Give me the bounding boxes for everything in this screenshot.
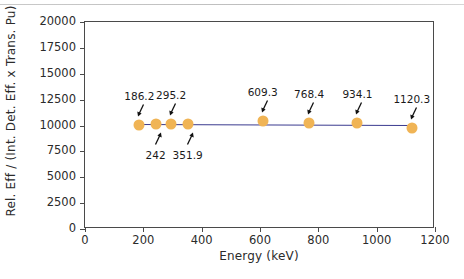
y-axis-title: Rel. Eff / (Int. Det. Eff. x Trans. Pu): [4, 0, 18, 246]
x-axis-tick: [143, 227, 144, 232]
y-axis-tick-label: 20000: [39, 16, 76, 28]
x-axis-tick-label: 800: [307, 235, 329, 247]
data-point-label: 186.2: [124, 91, 154, 102]
data-point-label: 934.1: [342, 89, 372, 100]
x-axis-tick-label: 400: [191, 235, 213, 247]
data-point-marker: [304, 118, 315, 129]
y-axis-tick: [80, 48, 85, 49]
y-axis-tick-label: 0: [69, 223, 76, 235]
data-point-marker: [406, 122, 417, 133]
y-axis-tick: [80, 22, 85, 23]
fit-line: [139, 124, 411, 126]
y-axis-tick: [80, 177, 85, 178]
y-axis-tick: [80, 100, 85, 101]
y-axis-tick-label: 5000: [47, 172, 76, 184]
data-point-label: 242: [146, 150, 166, 161]
data-point-label: 1120.3: [393, 94, 430, 105]
y-axis-tick-label: 15000: [39, 68, 76, 80]
data-point-marker: [257, 116, 268, 127]
chart-figure: 0250050007500100001250015000175002000002…: [0, 0, 464, 279]
data-point-label: 351.9: [173, 150, 203, 161]
data-point-label: 609.3: [248, 87, 278, 98]
x-axis-tick: [260, 227, 261, 232]
x-axis-tick: [202, 227, 203, 232]
annotation-arrow-icon: [354, 101, 364, 115]
annotation-arrow-icon: [306, 101, 316, 115]
data-point-label: 295.2: [156, 90, 186, 101]
y-axis-tick-label: 7500: [47, 146, 76, 158]
annotation-arrow-icon: [260, 99, 270, 113]
y-axis-tick: [80, 74, 85, 75]
annotation-arrow-icon: [185, 132, 195, 146]
x-axis-tick: [318, 227, 319, 232]
x-axis-tick: [377, 227, 378, 232]
data-point-marker: [166, 119, 177, 130]
y-axis-tick: [80, 151, 85, 152]
annotation-arrow-icon: [153, 132, 163, 146]
annotation-arrow-icon: [136, 103, 146, 117]
data-point-marker: [134, 119, 145, 130]
page-rule-divider: [0, 4, 464, 5]
data-point-marker: [150, 118, 161, 129]
data-point-label: 768.4: [294, 89, 324, 100]
plot-area: 0250050007500100001250015000175002000002…: [84, 21, 434, 228]
data-point-marker: [352, 117, 363, 128]
y-axis-tick: [80, 203, 85, 204]
x-axis-tick-label: 600: [249, 235, 271, 247]
x-axis-tick-label: 200: [132, 235, 154, 247]
x-axis-tick-label: 0: [81, 235, 88, 247]
annotation-arrow-icon: [168, 102, 178, 116]
x-axis-tick: [85, 227, 86, 232]
y-axis-tick-label: 2500: [47, 197, 76, 209]
y-axis-tick-label: 17500: [39, 42, 76, 54]
x-axis-title: Energy (keV): [84, 249, 434, 263]
x-axis-tick-label: 1200: [420, 235, 449, 247]
y-axis-tick-label: 10000: [39, 120, 76, 132]
x-axis-tick: [435, 227, 436, 232]
data-point-marker: [182, 118, 193, 129]
x-axis-tick-label: 1000: [362, 235, 391, 247]
annotation-arrow-icon: [409, 106, 419, 120]
y-axis-tick: [80, 126, 85, 127]
y-axis-tick-label: 12500: [39, 94, 76, 106]
